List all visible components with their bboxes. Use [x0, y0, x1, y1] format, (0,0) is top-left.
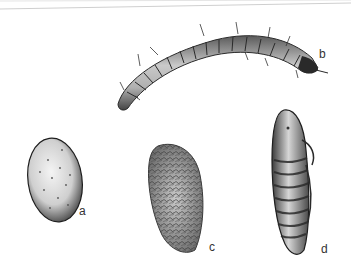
top-rule: [0, 0, 351, 9]
pupa-drawing: [272, 110, 314, 254]
cocoon-drawing: [149, 144, 203, 252]
label-larva: b: [319, 48, 326, 60]
illustration: b a c d: [0, 0, 351, 269]
larva-drawing: [118, 22, 328, 110]
label-egg: a: [79, 205, 86, 217]
label-cocoon: c: [209, 241, 215, 253]
label-pupa: d: [321, 243, 328, 255]
egg-drawing: [22, 135, 87, 226]
